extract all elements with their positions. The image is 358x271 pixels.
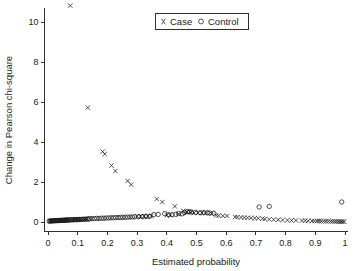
series-case-markers <box>48 3 347 223</box>
y-tick-label: 10 <box>28 17 38 27</box>
x-tick-label: 0.4 <box>161 238 174 248</box>
case-point-marker <box>239 215 243 219</box>
axis-frame <box>45 8 349 232</box>
control-point-marker <box>267 204 271 208</box>
case-point-marker <box>129 182 133 186</box>
case-point-marker <box>86 105 90 109</box>
case-point-marker <box>173 204 177 208</box>
case-point-marker <box>329 219 333 223</box>
case-point-marker <box>324 219 328 223</box>
case-point-marker <box>276 218 280 222</box>
case-point-marker <box>306 219 310 223</box>
y-tick-label: 6 <box>33 97 38 107</box>
case-point-marker <box>103 152 107 156</box>
x-tick-label: 1 <box>342 238 347 248</box>
case-point-marker <box>310 219 314 223</box>
x-tick-label: 0 <box>45 238 50 248</box>
control-point-marker <box>257 205 261 209</box>
case-point-marker <box>294 218 298 222</box>
case-point-marker <box>289 218 293 222</box>
y-tick-label: 8 <box>33 57 38 67</box>
control-point-marker <box>340 200 344 204</box>
case-point-marker <box>315 219 319 223</box>
case-point-marker <box>267 217 271 221</box>
case-point-marker <box>109 163 113 167</box>
case-point-marker <box>331 219 335 223</box>
scatter-plot-figure: 0246810 00.10.20.30.40.50.60.70.80.91 Es… <box>0 0 358 271</box>
x-tick-label: 0.2 <box>101 238 114 248</box>
control-point-marker <box>152 212 156 216</box>
x-tick-label: 0.1 <box>71 238 84 248</box>
case-point-marker <box>256 216 260 220</box>
y-axis-title: Change in Pearson chi-square <box>3 56 14 184</box>
legend: Case Control <box>156 14 249 30</box>
case-point-marker <box>68 3 72 7</box>
x-axis-title: Estimated probability <box>152 256 240 267</box>
y-tick-label: 2 <box>33 177 38 187</box>
case-point-marker <box>217 213 221 217</box>
case-point-marker <box>221 214 225 218</box>
case-point-marker <box>225 214 229 218</box>
legend-case-label: Case <box>170 16 192 27</box>
x-axis-ticks: 00.10.20.30.40.50.60.70.80.91 <box>45 232 347 248</box>
x-tick-label: 0.9 <box>309 238 322 248</box>
x-tick-label: 0.7 <box>250 238 263 248</box>
control-point-marker <box>156 212 160 216</box>
y-axis-ticks: 0246810 <box>28 17 44 227</box>
x-tick-label: 0.6 <box>220 238 233 248</box>
case-point-marker <box>272 217 276 221</box>
case-point-marker <box>160 200 164 204</box>
x-tick-label: 0.3 <box>131 238 144 248</box>
case-point-marker <box>321 219 325 223</box>
x-tick-label: 0.5 <box>190 238 203 248</box>
x-tick-label: 0.8 <box>279 238 292 248</box>
case-point-marker <box>155 197 159 201</box>
case-point-marker <box>280 218 284 222</box>
y-tick-label: 0 <box>33 217 38 227</box>
case-point-marker <box>285 218 289 222</box>
case-point-marker <box>113 169 117 173</box>
y-tick-label: 4 <box>33 137 38 147</box>
legend-control-label: Control <box>208 16 239 27</box>
plot-canvas: 0246810 00.10.20.30.40.50.60.70.80.91 Es… <box>0 0 358 271</box>
